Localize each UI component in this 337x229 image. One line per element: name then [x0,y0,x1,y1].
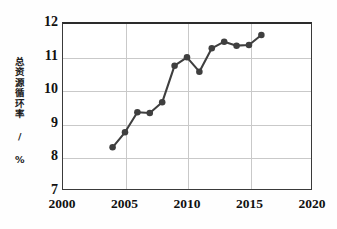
data-point-marker [122,129,129,136]
x-axis-tick: 2015 [227,196,273,212]
data-point-marker [209,45,216,52]
y-axis-tick: 10 [36,81,58,97]
y-axis-tick: 11 [36,48,58,64]
series-line [113,35,262,147]
data-point-marker [184,54,191,61]
chart-figure: 总资源循环率 / % 121110987 2000200520102015202… [0,0,337,229]
y-axis-tick: 9 [36,115,58,131]
data-point-marker [246,42,253,49]
data-point-marker [196,68,203,75]
y-axis-tick: 12 [36,14,58,30]
data-point-marker [258,32,265,39]
x-axis-tick: 2000 [39,196,85,212]
plot-area [62,22,312,190]
data-point-marker [159,99,166,106]
x-axis-tick-labels: 20002005201020152020 [0,196,337,218]
y-axis-label: 总资源循环率 / % [10,46,28,176]
data-point-marker [233,42,240,49]
data-point-marker [134,109,141,116]
y-axis-tick-labels: 121110987 [32,0,58,229]
x-axis-tick: 2020 [289,196,335,212]
data-point-marker [109,144,116,151]
x-axis-tick: 2005 [102,196,148,212]
x-axis-tick: 2010 [164,196,210,212]
y-axis-tick: 8 [36,148,58,164]
data-point-marker [147,110,154,117]
line-series [63,24,311,191]
data-point-marker [171,62,178,69]
data-point-marker [221,38,228,45]
